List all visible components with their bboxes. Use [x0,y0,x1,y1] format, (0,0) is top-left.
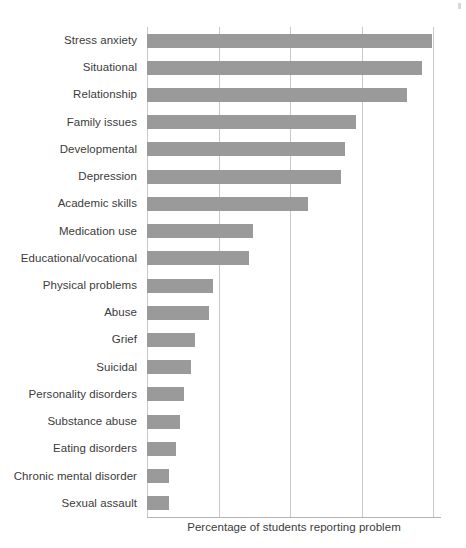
bar-row [147,354,441,380]
bar-row [147,381,441,407]
bar [147,251,249,265]
bar [147,88,407,102]
category-labels-layer: Stress anxietySituationalRelationshipFam… [0,27,143,517]
bar-row [147,27,441,53]
category-label: Personality disorders [0,381,143,408]
category-label: Relationship [0,81,143,108]
bar-row [147,408,441,434]
bar-row [147,81,441,107]
bar [147,61,422,75]
bar [147,197,308,211]
category-label: Eating disorders [0,435,143,462]
category-label: Physical problems [0,272,143,299]
category-label: Grief [0,326,143,353]
bar [147,279,213,293]
category-label: Chronic mental disorder [0,463,143,490]
bar-row [147,136,441,162]
scan-artifact [458,3,461,9]
bar-row [147,490,441,516]
bars-layer [147,27,441,517]
bar-row [147,54,441,80]
category-label: Family issues [0,109,143,136]
bar-row [147,299,441,325]
bar [147,333,195,347]
bar [147,360,191,374]
category-label: Substance abuse [0,408,143,435]
category-label: Stress anxiety [0,27,143,54]
bar [147,224,253,238]
bar-row [147,109,441,135]
category-label: Developmental [0,136,143,163]
x-axis-line [147,517,441,518]
category-label: Depression [0,163,143,190]
bar-row [147,463,441,489]
category-label: Educational/vocational [0,245,143,272]
bar-row [147,326,441,352]
bar-row [147,245,441,271]
bar [147,496,169,510]
category-label: Suicidal [0,354,143,381]
bar [147,415,180,429]
bar [147,142,345,156]
category-label: Sexual assault [0,490,143,517]
bar [147,115,356,129]
bar-chart-figure: Stress anxietySituationalRelationshipFam… [0,0,466,548]
bar [147,34,432,48]
category-label: Abuse [0,299,143,326]
bar [147,469,169,483]
bar-row [147,435,441,461]
bar-row [147,190,441,216]
category-label: Medication use [0,218,143,245]
bar [147,387,184,401]
x-axis-title: Percentage of students reporting problem [147,521,441,533]
bar-row [147,163,441,189]
bar-row [147,272,441,298]
bar [147,442,176,456]
category-label: Academic skills [0,190,143,217]
bar [147,306,209,320]
bar [147,170,341,184]
category-label: Situational [0,54,143,81]
bar-row [147,218,441,244]
